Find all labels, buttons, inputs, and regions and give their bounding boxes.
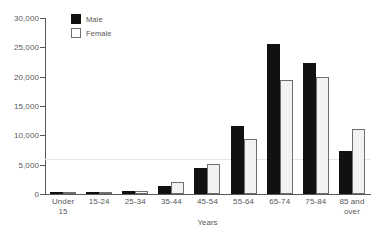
- x-axis-tick-label: 15-24: [81, 197, 117, 216]
- x-axis-tick-label: 45-54: [189, 197, 225, 216]
- plot-area: 05,00010,00015,00020,00025,00030,000: [45, 18, 370, 194]
- y-axis-tick-label: 5,000: [18, 160, 39, 169]
- bar-female: [352, 129, 365, 194]
- bar-male: [231, 126, 244, 194]
- bar-male: [158, 186, 171, 194]
- y-axis-tick-label: 25,000: [14, 43, 39, 52]
- bar-female: [99, 192, 112, 194]
- x-axis-title: Years: [45, 218, 370, 227]
- bar-female: [63, 192, 76, 194]
- legend-swatch-female-icon: [71, 28, 81, 38]
- bar-male: [194, 168, 207, 194]
- x-axis-tick-label: 65-74: [262, 197, 298, 216]
- bar-group: [117, 18, 153, 194]
- x-axis-line: [45, 194, 371, 195]
- bar-female: [171, 182, 184, 194]
- bar-group: [81, 18, 117, 194]
- bar-chart: 05,00010,00015,00020,00025,00030,000 Und…: [0, 0, 381, 237]
- legend-item-female: Female: [71, 27, 112, 39]
- y-axis-tick-label: 15,000: [14, 102, 39, 111]
- bar-male: [86, 192, 99, 194]
- x-axis-tick-label: 25-34: [117, 197, 153, 216]
- x-axis-tick-label: 35-44: [153, 197, 189, 216]
- x-axis-tick-label: 75-84: [298, 197, 334, 216]
- bar-group: [262, 18, 298, 194]
- y-axis-tick-label: 30,000: [14, 14, 39, 23]
- bar-group: [45, 18, 81, 194]
- bar-male: [122, 191, 135, 194]
- y-axis-tick-mark: [40, 194, 45, 195]
- y-axis-tick-label: 20,000: [14, 72, 39, 81]
- bar-group: [153, 18, 189, 194]
- bar-male: [339, 151, 352, 194]
- bar-group: [189, 18, 225, 194]
- bar-male: [50, 192, 63, 194]
- bar-female: [316, 77, 329, 194]
- bar-male: [303, 63, 316, 194]
- y-axis-tick-label: 0: [34, 190, 39, 199]
- bar-female: [135, 191, 148, 194]
- bar-group: [298, 18, 334, 194]
- x-axis-tick-label: Under15: [45, 197, 81, 216]
- bar-groups: [45, 18, 370, 194]
- bar-group: [334, 18, 370, 194]
- bar-female: [244, 139, 257, 194]
- bar-group: [226, 18, 262, 194]
- x-axis-tick-label: 85 andover: [334, 197, 370, 216]
- legend-swatch-male-icon: [71, 14, 81, 24]
- x-axis-tick-label: 55-64: [226, 197, 262, 216]
- bar-female: [207, 164, 220, 195]
- x-axis-tick-labels: Under1515-2425-3435-4445-5455-6465-7475-…: [45, 197, 370, 216]
- y-axis-tick-label: 10,000: [14, 131, 39, 140]
- legend-item-male: Male: [71, 13, 112, 25]
- legend-label-female: Female: [86, 29, 112, 38]
- legend: Male Female: [71, 13, 112, 41]
- legend-label-male: Male: [86, 15, 103, 24]
- bar-male: [267, 44, 280, 194]
- bar-female: [280, 80, 293, 194]
